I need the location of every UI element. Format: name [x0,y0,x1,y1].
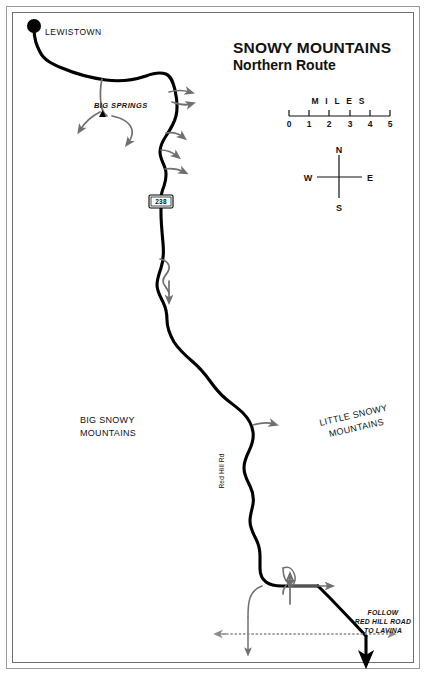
scale-tick-0: 0 [287,119,292,129]
scale-tick-4: 4 [368,119,373,129]
map-subtitle: Northern Route [233,57,336,73]
note-line2: RED HILL ROAD [355,618,411,625]
scale-label: M I L E S [311,96,366,106]
side-arrow-e6 [253,423,274,425]
big-snowy-line2: MOUNTAINS [80,428,136,438]
label-red-hill-rd: Red Hill Rd [218,453,225,488]
shield-number: 238 [155,198,167,205]
map-page: 238 LEWISTOWN BIG SPRINGS SNOWY MOUNTAIN… [0,0,428,677]
side-arrow-sw [80,112,100,130]
side-road-little-snowy [253,423,274,425]
big-snowy-line1: BIG SNOWY [80,415,135,425]
side-road-shield-east [165,169,184,172]
compass-north: N [336,145,343,155]
scale-tick-5: 5 [388,119,393,129]
town-connector-b [248,586,262,617]
side-arrow-e1 [169,91,190,93]
bottom-road-network [248,567,330,652]
side-arrow-s [112,116,132,143]
main-route-path [34,28,318,586]
label-big-snowy-mountains: BIG SNOWY MOUNTAINS [80,415,136,438]
highway-shield-238: 238 [149,195,173,208]
map-title: SNOWY MOUNTAINS [233,39,391,56]
label-little-snowy-mountains: LITTLE SNOWY MOUNTAINS [318,402,391,440]
note-follow-red-hill-road: FOLLOW RED HILL ROAD TO LAVINA [355,609,411,634]
note-line3: TO LAVINA [364,627,402,634]
city-marker-lewistown [27,19,41,33]
label-big-springs: BIG SPRINGS [94,101,148,110]
compass-rose: N S E W [304,145,373,213]
side-arrow-e5 [165,169,184,172]
map-canvas: 238 LEWISTOWN BIG SPRINGS SNOWY MOUNTAIN… [0,0,428,677]
note-line1: FOLLOW [368,609,399,616]
side-arrow-e4 [161,150,177,156]
compass-south: S [336,203,342,213]
side-road-big-springs [80,79,132,143]
compass-east: E [367,173,373,183]
label-lewistown: LEWISTOWN [45,27,102,37]
scale-tick-1: 1 [307,119,312,129]
compass-west: W [304,173,313,183]
scale-tick-2: 2 [327,119,332,129]
scale-tick-3: 3 [348,119,353,129]
side-arrow-e2 [172,102,191,105]
scale-bar: M I L E S 0 1 2 3 4 5 [287,96,393,129]
